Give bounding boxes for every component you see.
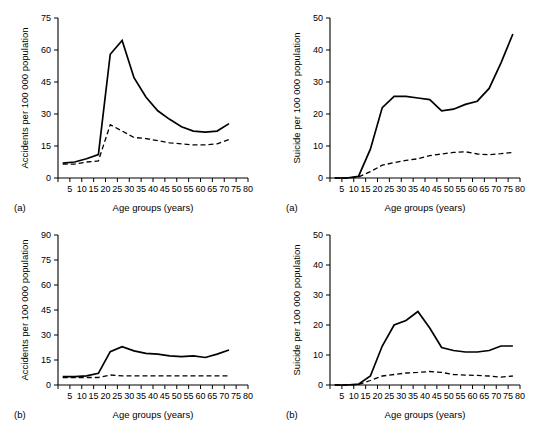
svg-text:50: 50 [444, 184, 454, 194]
svg-text:40: 40 [148, 184, 158, 194]
series-males [63, 347, 229, 377]
svg-text:10: 10 [77, 184, 87, 194]
svg-text:65: 65 [479, 391, 489, 401]
svg-text:40: 40 [313, 45, 323, 55]
svg-text:5: 5 [67, 184, 72, 194]
svg-text:60: 60 [467, 391, 477, 401]
svg-text:0: 0 [318, 173, 323, 183]
svg-text:25: 25 [384, 184, 394, 194]
y-axis-label: Accidents per 100 000 population [19, 27, 30, 168]
svg-text:70: 70 [491, 391, 501, 401]
svg-text:30: 30 [313, 290, 323, 300]
svg-text:60: 60 [195, 184, 205, 194]
svg-text:75: 75 [231, 184, 241, 194]
svg-text:50: 50 [172, 184, 182, 194]
chart-panel-accidents-b: 5101520253035404550556065707580015304560… [12, 223, 262, 431]
svg-text:50: 50 [172, 391, 182, 401]
svg-text:15: 15 [361, 391, 371, 401]
svg-text:70: 70 [219, 391, 229, 401]
svg-text:55: 55 [456, 184, 466, 194]
figure-grid: 5101520253035404550556065707580015304560… [0, 0, 551, 435]
y-axis-label: Suicide per 100 000 population [291, 245, 302, 376]
svg-text:50: 50 [313, 230, 323, 240]
series-males [335, 312, 513, 386]
chart-panel-suicide-b: 5101520253035404550556065707580010203040… [284, 223, 534, 431]
svg-text:10: 10 [313, 350, 323, 360]
svg-text:5: 5 [67, 391, 72, 401]
svg-text:80: 80 [515, 184, 525, 194]
svg-text:90: 90 [41, 230, 51, 240]
svg-text:0: 0 [46, 173, 51, 183]
svg-text:20: 20 [313, 320, 323, 330]
svg-text:10: 10 [77, 391, 87, 401]
svg-text:45: 45 [41, 305, 51, 315]
svg-text:25: 25 [112, 391, 122, 401]
svg-text:45: 45 [160, 184, 170, 194]
svg-text:35: 35 [408, 184, 418, 194]
svg-text:40: 40 [420, 184, 430, 194]
svg-text:80: 80 [243, 184, 253, 194]
panel-letter: (a) [286, 202, 298, 213]
svg-text:75: 75 [231, 391, 241, 401]
svg-text:65: 65 [207, 184, 217, 194]
svg-text:10: 10 [349, 391, 359, 401]
svg-text:30: 30 [41, 109, 51, 119]
svg-text:75: 75 [503, 184, 513, 194]
x-axis-label: Age groups (years) [113, 409, 194, 420]
svg-text:55: 55 [456, 391, 466, 401]
panel-letter: (b) [14, 409, 26, 420]
svg-text:30: 30 [396, 184, 406, 194]
svg-text:15: 15 [41, 141, 51, 151]
svg-text:65: 65 [207, 391, 217, 401]
svg-text:80: 80 [515, 391, 525, 401]
svg-text:30: 30 [124, 391, 134, 401]
svg-text:25: 25 [112, 184, 122, 194]
svg-text:30: 30 [313, 77, 323, 87]
x-axis-label: Age groups (years) [385, 409, 466, 420]
svg-text:60: 60 [467, 184, 477, 194]
svg-text:20: 20 [100, 391, 110, 401]
svg-text:50: 50 [313, 13, 323, 23]
svg-text:35: 35 [136, 184, 146, 194]
svg-text:40: 40 [420, 391, 430, 401]
y-axis-label: Accidents per 100 000 population [19, 239, 30, 380]
svg-text:30: 30 [124, 184, 134, 194]
svg-text:20: 20 [313, 109, 323, 119]
svg-text:55: 55 [184, 184, 194, 194]
svg-text:15: 15 [361, 184, 371, 194]
svg-text:20: 20 [372, 184, 382, 194]
panel-letter: (b) [286, 409, 298, 420]
panel-letter: (a) [14, 202, 26, 213]
svg-text:5: 5 [339, 184, 344, 194]
svg-text:10: 10 [313, 141, 323, 151]
series-males [335, 34, 513, 178]
svg-text:0: 0 [318, 380, 323, 390]
svg-text:65: 65 [479, 184, 489, 194]
svg-text:25: 25 [384, 391, 394, 401]
svg-text:35: 35 [136, 391, 146, 401]
svg-text:15: 15 [89, 184, 99, 194]
svg-text:45: 45 [160, 391, 170, 401]
svg-text:30: 30 [41, 330, 51, 340]
svg-text:75: 75 [41, 13, 51, 23]
svg-text:0: 0 [46, 380, 51, 390]
series-females [335, 152, 513, 178]
svg-text:45: 45 [41, 77, 51, 87]
x-axis-label: Age groups (years) [385, 202, 466, 213]
svg-text:70: 70 [219, 184, 229, 194]
svg-text:20: 20 [372, 391, 382, 401]
svg-text:75: 75 [503, 391, 513, 401]
svg-text:35: 35 [408, 391, 418, 401]
svg-text:55: 55 [184, 391, 194, 401]
svg-text:30: 30 [396, 391, 406, 401]
svg-text:70: 70 [491, 184, 501, 194]
svg-text:50: 50 [444, 391, 454, 401]
svg-text:60: 60 [41, 280, 51, 290]
svg-text:75: 75 [41, 255, 51, 265]
chart-panel-suicide-a: 5101520253035404550556065707580010203040… [284, 6, 534, 224]
svg-text:40: 40 [148, 391, 158, 401]
svg-text:40: 40 [313, 260, 323, 270]
svg-text:45: 45 [432, 391, 442, 401]
svg-text:10: 10 [349, 184, 359, 194]
svg-text:20: 20 [100, 184, 110, 194]
